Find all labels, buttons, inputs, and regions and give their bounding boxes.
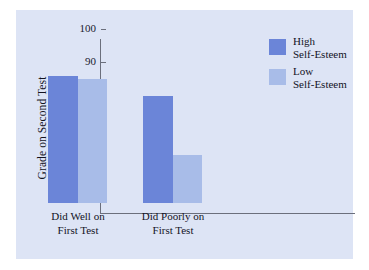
bar-did-poorly-high-self-esteem [143,96,173,203]
bar-did-well-high-self-esteem [48,76,78,203]
chart-figure: 100 90 80 70 60 Grade on Second Test Did… [0,0,369,270]
y-tick-mark-90 [101,62,106,63]
y-tick-label-100: 100 [68,23,96,34]
legend-label-low-line2: Self-Esteem [293,78,347,91]
legend-swatch-high-self-esteem [269,39,286,55]
x-axis-label-group-did-poorly: Did Poorly on First Test [118,209,228,237]
x-axis-label-did-poorly-line1: Did Poorly on [142,210,204,222]
x-axis-label-did-well-line2: First Test [58,224,99,236]
bar-did-well-low-self-esteem [78,79,107,203]
legend-label-high-self-esteem: High Self-Esteem [293,35,347,61]
chart-plot-panel: 100 90 80 70 60 Grade on Second Test Did… [16,10,353,259]
legend-label-high-line1: High [293,35,347,48]
x-axis-label-group-did-well: Did Well on First Test [23,209,133,237]
y-tick-mark-100 [101,29,106,30]
bar-did-poorly-low-self-esteem [173,155,202,203]
legend-label-low-self-esteem: Low Self-Esteem [293,65,347,91]
legend-swatch-low-self-esteem [269,69,286,85]
y-tick-label-100-text: 100 [68,23,96,34]
x-axis-label-did-well-line1: Did Well on [51,210,104,222]
y-tick-label-90: 90 [68,56,96,67]
y-axis-title: Grade on Second Test [36,58,48,198]
legend-label-high-line2: Self-Esteem [293,48,347,61]
x-axis-label-did-poorly-line2: First Test [153,224,194,236]
y-tick-label-90-text: 90 [68,56,96,67]
legend-label-low-line1: Low [293,65,347,78]
